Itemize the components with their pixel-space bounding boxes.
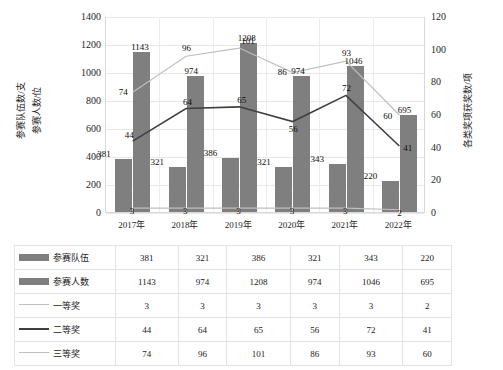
table-cell-r2-c3: 3 [290,294,339,318]
table-cell-r3-c2: 65 [227,318,291,342]
table-cell-r0-c3: 321 [290,246,339,270]
legend-label: 参赛队伍 [53,253,89,263]
label-second-prize-2017年: 44 [125,130,134,140]
table-cell-r0-c1: 321 [178,246,227,270]
y2-tick-0: 0 [431,207,465,219]
legend-label: 参赛人数 [53,277,89,287]
x-label-2019年: 2019年 [212,218,265,231]
legend-cell-3: 二等奖 [15,318,116,342]
y2-tick-120: 120 [431,11,465,23]
y-tick-0: 0 [67,207,101,219]
table-cell-r0-c0: 381 [116,246,179,270]
y-tick-1000: 1000 [67,67,101,79]
table-cell-r2-c2: 3 [227,294,291,318]
legend-cell-0: 参赛队伍 [15,246,116,270]
label-third-prize-2019年: 101 [241,36,255,46]
table-cell-r4-c2: 101 [227,342,291,366]
gridline [106,213,424,214]
label-second-prize-2019年: 65 [237,95,246,105]
y2-tick-80: 80 [431,76,465,88]
plot-area: 3811143321974386120832197434310462206953… [105,17,425,213]
line-light-swatch-icon [19,304,49,305]
legend-cell-4: 三等奖 [15,342,116,366]
table-cell-r4-c1: 96 [178,342,227,366]
label-first-prize-2022年: 2 [397,208,402,218]
y-tick-1400: 1400 [67,11,101,23]
y-tick-600: 600 [67,123,101,135]
line-second-prize [133,95,400,146]
table-cell-r1-c2: 1208 [227,270,291,294]
y-axis-title-people: 参赛人数/位 [30,63,43,159]
table-row: 三等奖7496101869360 [15,342,452,366]
label-first-prize-2020年: 3 [290,206,295,216]
y-axis-title-teams: 参赛队伍数/支 [14,63,27,159]
table-cell-r4-c5: 60 [403,342,452,366]
combo-chart: 参赛队伍数/支 参赛人数/位 各类奖项获奖数/项 020040060080010… [0,0,503,240]
table-cell-r0-c5: 220 [403,246,452,270]
label-second-prize-2022年: 41 [403,143,412,153]
label-third-prize-2022年: 60 [383,111,392,121]
legend-label: 三等奖 [53,349,80,359]
label-second-prize-2018年: 64 [183,97,192,107]
label-third-prize-2017年: 74 [119,87,128,97]
legend-cell-2: 一等奖 [15,294,116,318]
data-table: 参赛队伍381321386321343220参赛人数11439741208974… [14,245,452,366]
y2-tick-20: 20 [431,174,465,186]
table-cell-r2-c0: 3 [116,294,179,318]
label-first-prize-2019年: 3 [236,206,241,216]
label-second-prize-2021年: 72 [342,83,351,93]
y-tick-800: 800 [67,95,101,107]
table-cell-r3-c1: 64 [178,318,227,342]
legend-label: 一等奖 [53,301,80,311]
table-cell-r4-c3: 86 [290,342,339,366]
label-first-prize-2017年: 3 [130,206,135,216]
legend-label: 二等奖 [53,325,80,335]
table-cell-r0-c2: 386 [227,246,291,270]
label-first-prize-2021年: 3 [343,206,348,216]
table-row: 一等奖333332 [15,294,452,318]
label-teams-2019年: 386 [204,148,218,158]
y-tick-200: 200 [67,179,101,191]
y-tick-400: 400 [67,151,101,163]
table-cell-r0-c4: 343 [339,246,403,270]
line-light-swatch-icon [19,352,49,353]
label-teams-2017年: 381 [97,149,111,159]
table-cell-r1-c3: 974 [290,270,339,294]
bar-swatch-icon [19,254,49,261]
label-teams-2020年: 321 [257,157,271,167]
table-cell-r2-c4: 3 [339,294,403,318]
label-teams-2022年: 220 [364,171,378,181]
label-people-2020年: 974 [291,66,305,76]
x-label-2021年: 2021年 [318,218,371,231]
label-people-2022年: 695 [398,105,412,115]
line-series-group [106,17,426,213]
bar-swatch-icon [19,278,49,285]
table-cell-r1-c4: 1046 [339,270,403,294]
table-row: 参赛人数114397412089741046695 [15,270,452,294]
y2-tick-60: 60 [431,109,465,121]
table-cell-r3-c4: 72 [339,318,403,342]
label-teams-2021年: 343 [311,154,325,164]
label-third-prize-2021年: 93 [342,48,351,58]
label-first-prize-2018年: 3 [183,206,188,216]
table-cell-r3-c0: 44 [116,318,179,342]
label-people-2017年: 1143 [131,42,149,52]
line-first-prize [133,208,400,210]
label-teams-2018年: 321 [151,157,165,167]
table-row: 二等奖446465567241 [15,318,452,342]
table-cell-r2-c1: 3 [178,294,227,318]
table-cell-r4-c4: 93 [339,342,403,366]
y-tick-1200: 1200 [67,39,101,51]
table-cell-r1-c0: 1143 [116,270,179,294]
label-third-prize-2020年: 86 [278,67,287,77]
label-people-2018年: 974 [185,66,199,76]
table-cell-r3-c3: 56 [290,318,339,342]
x-label-2022年: 2022年 [372,218,425,231]
table-row: 参赛队伍381321386321343220 [15,246,452,270]
table-cell-r1-c5: 695 [403,270,452,294]
line-dark-swatch-icon [19,328,49,330]
y2-tick-100: 100 [431,44,465,56]
x-label-2017年: 2017年 [105,218,158,231]
label-third-prize-2018年: 96 [182,43,191,53]
table-cell-r2-c5: 2 [403,294,452,318]
